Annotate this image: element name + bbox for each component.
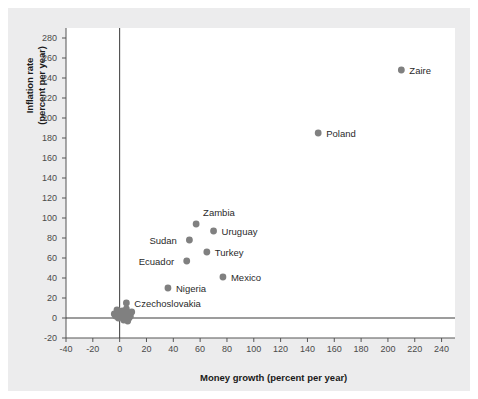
x-tick-label: -20 [78, 345, 108, 354]
x-tick-label: 80 [212, 345, 242, 354]
data-point-label-turkey: Turkey [215, 248, 244, 258]
y-tick-label: 260 [31, 54, 57, 63]
y-tick-label: 20 [31, 294, 57, 303]
y-tick-label: 160 [31, 154, 57, 163]
data-point-label-zambia: Zambia [203, 208, 235, 218]
x-tick-label: -40 [51, 345, 81, 354]
data-point-label-zaire: Zaire [409, 66, 431, 76]
x-tick-label: 240 [427, 345, 457, 354]
data-point-label-sudan: Sudan [149, 236, 176, 246]
x-tick-label: 0 [105, 345, 135, 354]
data-point-label-uruguay: Uruguay [222, 227, 258, 237]
data-point-label-czechoslovakia: Czechoslovakia [134, 299, 201, 309]
data-point-label-nigeria: Nigeria [176, 284, 206, 294]
data-point-label-poland: Poland [326, 129, 356, 139]
x-tick-label: 140 [292, 345, 322, 354]
x-axis-title: Money growth (percent per year) [200, 372, 347, 383]
x-tick-label: 160 [319, 345, 349, 354]
x-tick-label: 20 [131, 345, 161, 354]
x-tick-label: 40 [158, 345, 188, 354]
y-tick-label: 140 [31, 174, 57, 183]
y-tick-label: 60 [31, 254, 57, 263]
y-tick-label: 220 [31, 94, 57, 103]
x-tick-label: 200 [373, 345, 403, 354]
y-tick-label: 280 [31, 34, 57, 43]
y-tick-label: 240 [31, 74, 57, 83]
y-tick-label: 200 [31, 114, 57, 123]
plot-panel [66, 28, 455, 338]
x-tick-label: 180 [346, 345, 376, 354]
x-tick-label: 100 [239, 345, 269, 354]
y-tick-label: 180 [31, 134, 57, 143]
data-point-label-mexico: Mexico [231, 273, 261, 283]
y-tick-label: 40 [31, 274, 57, 283]
x-tick-label: 220 [400, 345, 430, 354]
scatter-plot-figure: Inflation rate (percent per year) Money … [0, 0, 478, 399]
x-tick-label: 60 [185, 345, 215, 354]
y-tick-label: 120 [31, 194, 57, 203]
y-tick-label: 100 [31, 214, 57, 223]
y-tick-label: 0 [31, 314, 57, 323]
x-tick-label: 120 [266, 345, 296, 354]
data-point-label-ecuador: Ecuador [139, 257, 174, 267]
y-axis-title-line1: Inflation rate [24, 58, 35, 114]
y-tick-label: -20 [31, 334, 57, 343]
y-tick-label: 80 [31, 234, 57, 243]
